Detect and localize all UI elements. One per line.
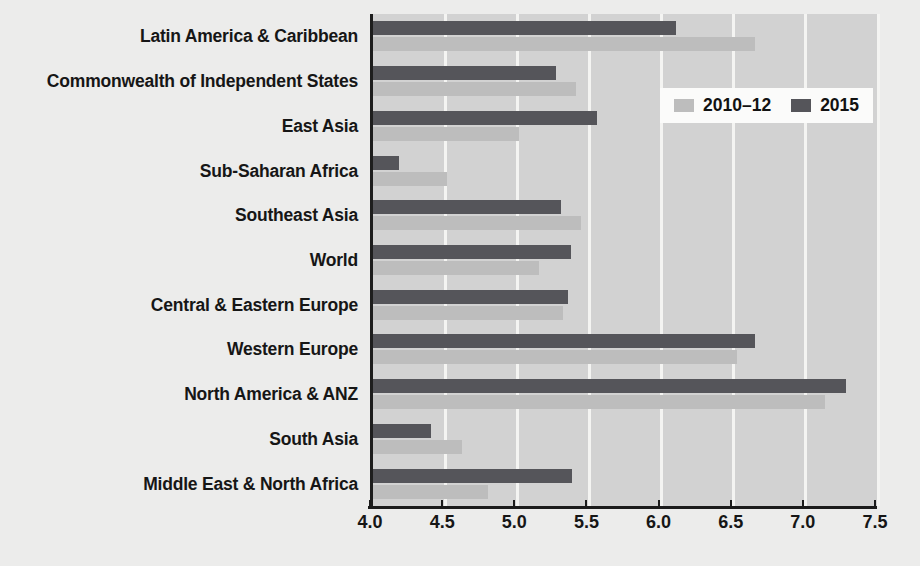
bar-2010-12 [373, 261, 539, 275]
category-label: East Asia [0, 115, 358, 136]
x-axis-tick [802, 500, 804, 507]
x-axis-tick-label: 5.5 [574, 512, 599, 533]
legend-entry: 2010–12 [674, 95, 771, 116]
category-label: Western Europe [0, 339, 358, 360]
x-axis-tick-label: 6.0 [646, 512, 671, 533]
bar-2015 [373, 156, 399, 170]
x-axis-line [368, 506, 877, 509]
x-axis-tick-label: 6.5 [718, 512, 743, 533]
x-axis-tick [441, 500, 443, 507]
category-axis-labels: Latin America & CaribbeanCommonwealth of… [0, 14, 358, 506]
category-label: Commonwealth of Independent States [0, 71, 358, 92]
legend-label: 2015 [820, 95, 859, 116]
bar-2010-12 [373, 216, 581, 230]
legend-entry: 2015 [791, 95, 859, 116]
gridline [588, 14, 591, 506]
bar-2010-12 [373, 127, 519, 141]
category-label: South Asia [0, 428, 358, 449]
legend-label: 2010–12 [703, 95, 771, 116]
bar-2015 [373, 290, 568, 304]
bar-2015 [373, 66, 556, 80]
x-axis-tick-label: 5.0 [502, 512, 527, 533]
bar-2015 [373, 379, 846, 393]
legend-swatch-icon [674, 99, 694, 112]
gridline [877, 14, 880, 506]
category-label: Sub-Saharan Africa [0, 160, 358, 181]
x-axis-tick [513, 500, 515, 507]
x-axis-tick [369, 500, 371, 507]
bar-2010-12 [373, 37, 755, 51]
bar-2010-12 [373, 172, 447, 186]
bar-2010-12 [373, 395, 825, 409]
bar-2010-12 [373, 440, 462, 454]
bar-2015 [373, 245, 571, 259]
category-label: World [0, 250, 358, 271]
chart-page: Latin America & CaribbeanCommonwealth of… [0, 0, 920, 566]
chart-legend: 2010–122015 [660, 88, 873, 123]
bar-2015 [373, 21, 676, 35]
x-axis-tick [585, 500, 587, 507]
bar-2010-12 [373, 485, 488, 499]
x-axis-tick-label: 7.5 [862, 512, 887, 533]
x-axis-tick-label: 7.0 [790, 512, 815, 533]
category-label: Central & Eastern Europe [0, 294, 358, 315]
legend-swatch-icon [791, 99, 811, 112]
bar-2010-12 [373, 82, 576, 96]
x-axis-tick-label: 4.5 [430, 512, 455, 533]
x-axis-tick [658, 500, 660, 507]
bar-2015 [373, 424, 431, 438]
bar-2015 [373, 200, 561, 214]
bar-2015 [373, 111, 597, 125]
x-axis-tick-label: 4.0 [357, 512, 382, 533]
bar-2015 [373, 469, 572, 483]
category-label: Southeast Asia [0, 205, 358, 226]
category-label: Middle East & North Africa [0, 473, 358, 494]
bar-2010-12 [373, 350, 737, 364]
category-label: Latin America & Caribbean [0, 26, 358, 47]
x-axis-tick [730, 500, 732, 507]
x-axis-tick [874, 500, 876, 507]
bar-2010-12 [373, 306, 563, 320]
category-label: North America & ANZ [0, 384, 358, 405]
bar-2015 [373, 334, 755, 348]
